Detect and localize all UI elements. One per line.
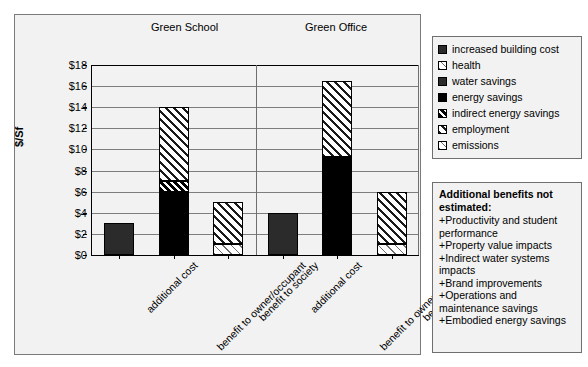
x-axis-tick-mark [174,255,175,259]
plot-right-edge [418,65,419,255]
y-axis-tick-mark [83,255,87,256]
bar-benefit-to-society [377,192,407,255]
legend-item: employment [438,121,577,137]
bar-segment-emissions [377,244,407,255]
bar-additional-cost [104,223,134,255]
x-axis-label: additional cost [144,259,200,315]
bar-segment-energy-savings [322,157,352,255]
x-axis-tick-mark [337,255,338,259]
bar-benefit-to-owner-occupant [159,107,189,255]
legend: increased building costhealthwater savin… [432,36,582,159]
y-axis-tick-mark [83,149,87,150]
legend-label: indirect energy savings [452,108,559,119]
legend-swatch-icon [438,77,447,86]
y-axis-tick-mark [83,65,87,66]
bar-benefit-to-owner-occupant [322,81,352,255]
y-axis-tick-mark [83,213,87,214]
additional-benefits-list: +Productivity and student performance+Pr… [439,214,576,327]
y-axis-tick-label: $18 [53,59,87,71]
y-axis-tick-mark [83,234,87,235]
legend-swatch-icon [438,45,447,54]
y-axis-tick-label: $10 [53,143,87,155]
y-axis-tick-mark [83,192,87,193]
y-axis-tick-label: $12 [53,122,87,134]
group-title-green-school: Green School [151,21,218,33]
y-axis-tick-label: $14 [53,101,87,113]
bar-segment-energy-savings [159,192,189,255]
legend-label: increased building cost [452,44,559,55]
y-axis-tick-label: $6 [53,186,87,198]
y-axis-title: $/Sf [13,127,25,147]
y-axis-tick-label: $16 [53,80,87,92]
legend-label: employment [452,124,509,135]
y-axis-tick-mark [83,128,87,129]
legend-label: water savings [452,76,516,87]
x-axis-label: benefit to owner/occupant [214,259,308,353]
y-axis-tick-mark [83,107,87,108]
legend-label: energy savings [452,92,523,103]
additional-benefit-item: +Indirect water systems impacts [439,252,576,277]
bar-segment-emissions [213,244,243,255]
y-axis-tick-label: $4 [53,207,87,219]
group-title-green-office: Green Office [305,21,367,33]
legend-swatch-icon [438,141,447,150]
y-axis-tick-label: $8 [53,165,87,177]
y-axis-tick-mark [83,86,87,87]
y-axis-tick-label: $0 [53,249,87,261]
legend-item: increased building cost [438,41,577,57]
legend-item: health [438,57,577,73]
y-axis-tick-mark [83,171,87,172]
x-axis-tick-mark [228,255,229,259]
bar-segment-employment [213,202,243,244]
additional-benefits-box: Additional benefits not estimated: +Prod… [432,182,582,353]
legend-item: indirect energy savings [438,105,577,121]
legend-label: health [452,60,481,71]
additional-benefit-item: +Property value impacts [439,239,576,252]
legend-item: energy savings [438,89,577,105]
x-axis-tick-mark [283,255,284,259]
x-axis-tick-mark [392,255,393,259]
additional-benefits-title: Additional benefits not estimated: [439,188,576,213]
legend-swatch-icon [438,61,447,70]
bar-segment-employment [159,107,189,181]
bar-additional-cost [268,213,298,255]
additional-benefit-item: +Embodied energy savings [439,314,576,327]
plot-area [91,65,419,256]
legend-label: emissions [452,140,499,151]
additional-benefit-item: +Productivity and student performance [439,214,576,239]
legend-item: emissions [438,137,577,153]
legend-swatch-icon [438,109,447,118]
y-axis-tick-labels: $18$16$14$12$10$8$6$4$2$0 [43,65,87,255]
legend-swatch-icon [438,125,447,134]
bar-benefit-to-society [213,202,243,255]
legend-swatch-icon [438,93,447,102]
additional-benefit-item: +Operations and maintenance savings [439,289,576,314]
bar-segment-indirect-energy-savings [159,181,189,192]
x-axis-tick-mark [119,255,120,259]
group-divider [256,65,257,255]
bar-segment-increased-building-cost [268,213,298,255]
legend-item: water savings [438,73,577,89]
bar-segment-employment [377,192,407,245]
chart-screenshot: Green School Green Office $/Sf $18$16$14… [0,0,588,367]
bar-segment-employment [322,81,352,157]
y-axis-tick-label: $2 [53,228,87,240]
additional-benefit-item: +Brand improvements [439,277,576,290]
bar-segment-increased-building-cost [104,223,134,255]
chart-panel: Green School Green Office $/Sf $18$16$14… [14,14,421,355]
